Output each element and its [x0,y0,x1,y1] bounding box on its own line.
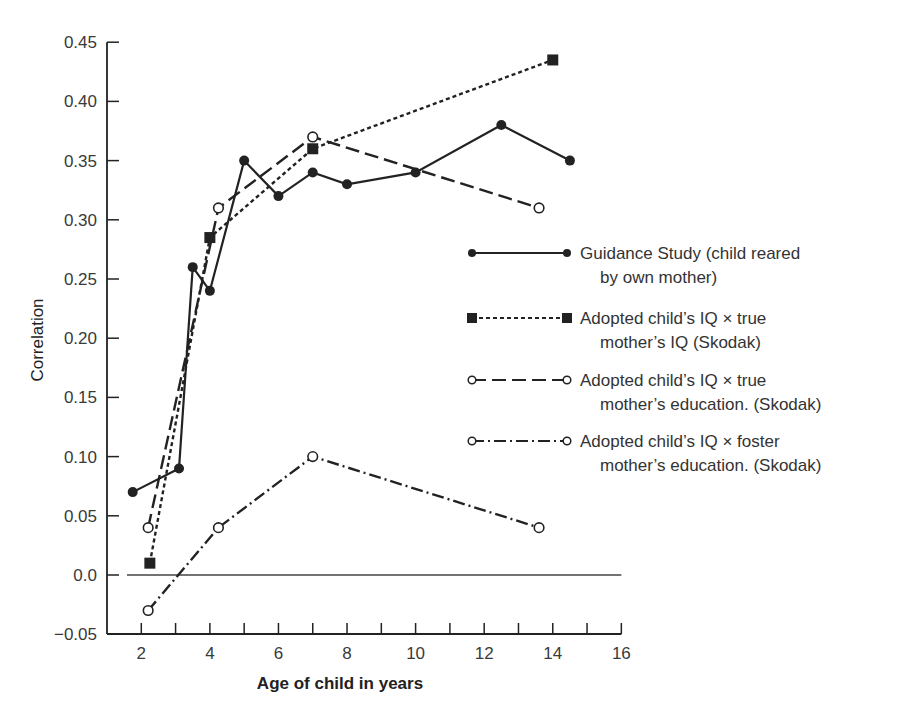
data-point [214,203,224,213]
x-axis-title: Age of child in years [257,674,423,693]
y-tick-label: 0.25 [64,270,97,289]
data-point [143,523,153,533]
data-point [205,286,215,296]
data-point [214,523,224,533]
legend-item-3: Adopted child’s IQ × truemother’s educat… [468,371,821,414]
data-point [143,606,153,616]
data-point [342,179,352,189]
legend-item-4: Adopted child’s IQ × fostermother’s educ… [468,432,821,475]
legend-marker [563,376,571,384]
data-point [239,156,249,166]
legend-marker [468,376,476,384]
series-3 [143,132,544,532]
data-point [308,132,318,142]
legend-label: Adopted child’s IQ × foster [580,432,780,451]
x-tick-label: 16 [612,644,631,663]
x-tick-label: 10 [406,644,425,663]
series-layer [128,54,575,615]
data-point [496,120,506,130]
data-point [534,523,544,533]
series-1 [128,120,575,497]
data-point [547,54,558,65]
legend-label: Adopted child’s IQ × true [580,309,766,328]
y-tick-label: 0.0 [73,566,97,585]
legend-marker [563,437,571,445]
y-tick-label: 0.30 [64,211,97,230]
x-tick-label: 14 [543,644,562,663]
legend-label: mother’s IQ (Skodak) [600,333,761,352]
chart-canvas: −0.050.00.050.100.150.200.250.300.350.40… [0,0,918,721]
legend-label: mother’s education. (Skodak) [600,456,821,475]
data-point [308,167,318,177]
y-tick-label: 0.35 [64,152,97,171]
data-point [174,463,184,473]
y-tick-label: 0.40 [64,92,97,111]
series-line [150,60,553,563]
legend-marker [468,437,476,445]
data-point [565,156,575,166]
data-point [128,487,138,497]
y-tick-label: 0.20 [64,329,97,348]
series-line [148,137,539,528]
legend: Guidance Study (child rearedby own mothe… [467,244,821,475]
legend-marker [562,313,572,323]
legend-label: Adopted child’s IQ × true [580,371,766,390]
series-line [133,125,570,492]
legend-label: mother’s education. (Skodak) [600,395,821,414]
data-point [144,558,155,569]
legend-marker [468,249,476,257]
x-tick-label: 2 [137,644,146,663]
data-point [307,143,318,154]
y-tick-label: 0.45 [64,33,97,52]
y-tick-label: 0.15 [64,388,97,407]
x-tick-label: 8 [342,644,351,663]
legend-label: by own mother) [600,268,717,287]
legend-marker [467,313,477,323]
series-line [148,457,539,611]
data-point [188,262,198,272]
series-2 [144,54,558,568]
legend-label: Guidance Study (child reared [580,244,800,263]
x-tick-label: 12 [475,644,494,663]
y-tick-label: 0.05 [64,507,97,526]
legend-item-1: Guidance Study (child rearedby own mothe… [468,244,800,287]
axes: −0.050.00.050.100.150.200.250.300.350.40… [54,33,631,663]
data-point [308,452,318,462]
x-tick-label: 4 [205,644,214,663]
x-tick-label: 6 [274,644,283,663]
legend-item-2: Adopted child’s IQ × truemother’s IQ (Sk… [467,309,766,352]
y-tick-label: 0.10 [64,448,97,467]
data-point [534,203,544,213]
y-tick-label: −0.05 [54,625,97,644]
data-point [273,191,283,201]
series-4 [143,452,544,616]
legend-marker [563,249,571,257]
y-axis-title: Correlation [28,298,47,381]
